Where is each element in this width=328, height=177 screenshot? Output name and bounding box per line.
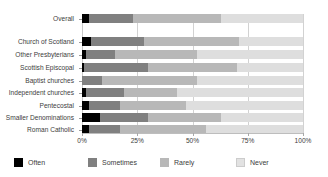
bar-segment-rarely	[124, 88, 177, 97]
bar-segment-rarely	[133, 14, 221, 23]
legend-label: Sometimes	[102, 158, 137, 167]
often-swatch	[14, 158, 23, 167]
bar-row	[82, 50, 303, 59]
bar-segment-sometimes	[89, 101, 120, 110]
category-label: Scottish Episcopal	[20, 63, 74, 72]
plot-area	[82, 14, 303, 133]
legend-label: Rarely	[174, 158, 194, 167]
category-label: Overall	[53, 14, 74, 23]
bar-segment-sometimes	[89, 14, 133, 23]
legend-label: Never	[250, 158, 269, 167]
bar-segment-often	[82, 101, 89, 110]
x-tick-25	[137, 133, 138, 136]
bar-segment-never	[221, 113, 303, 122]
x-tick-label: 25%	[131, 137, 144, 145]
category-label: Independent churches	[9, 88, 74, 97]
bar-row	[82, 37, 303, 46]
bar-segment-never	[177, 88, 303, 97]
x-tick-100	[303, 133, 304, 136]
bar-segment-sometimes	[86, 88, 124, 97]
sometimes-swatch	[88, 158, 97, 167]
x-tick-75	[248, 133, 249, 136]
bar-segment-often	[82, 37, 91, 46]
bar-segment-never	[221, 14, 303, 23]
category-label: Pentecostal	[40, 101, 74, 110]
category-tick	[79, 19, 82, 20]
bar-segment-never	[197, 50, 303, 59]
legend-item[interactable]: Sometimes	[88, 158, 137, 167]
legend-label: Often	[28, 158, 45, 167]
bar-segment-rarely	[102, 76, 197, 85]
legend-item[interactable]: Never	[236, 158, 269, 167]
category-label: Roman Catholic	[27, 125, 74, 134]
bar-rows	[82, 14, 303, 133]
bar-segment-rarely	[148, 113, 221, 122]
bar-segment-often	[82, 113, 100, 122]
legend-item[interactable]: Rarely	[160, 158, 194, 167]
bar-segment-rarely	[144, 37, 239, 46]
stacked-bar-chart: OverallChurch of ScotlandOther Presbyter…	[0, 0, 328, 177]
bar-segment-often	[82, 14, 89, 23]
category-tick	[79, 93, 82, 94]
x-tick-label: 50%	[186, 137, 199, 145]
x-tick-label: 0%	[77, 137, 87, 145]
bar-segment-never	[197, 76, 303, 85]
bar-row	[82, 76, 303, 85]
bar-row	[82, 101, 303, 110]
category-tick	[79, 81, 82, 82]
category-tick	[79, 118, 82, 119]
category-tick	[79, 68, 82, 69]
bar-segment-never	[239, 37, 303, 46]
category-tick	[79, 42, 82, 43]
never-swatch	[236, 158, 245, 167]
bar-segment-sometimes	[84, 63, 148, 72]
x-tick-label: 75%	[241, 137, 254, 145]
legend-item[interactable]: Often	[14, 158, 45, 167]
bar-segment-sometimes	[100, 113, 149, 122]
bar-segment-rarely	[120, 101, 186, 110]
category-label: Smaller Denominations	[6, 113, 74, 122]
category-tick	[79, 130, 82, 131]
category-tick	[79, 55, 82, 56]
chart-legend: OftenSometimesRarelyNever	[0, 155, 328, 177]
gridline-100	[303, 14, 304, 133]
bar-segment-rarely	[148, 63, 236, 72]
category-label: Church of Scotland	[18, 37, 74, 46]
clipped-title-strip	[0, 0, 328, 9]
bar-segment-sometimes	[82, 76, 102, 85]
bar-segment-never	[237, 63, 303, 72]
bar-row	[82, 14, 303, 23]
bar-segment-sometimes	[86, 50, 115, 59]
bar-row	[82, 63, 303, 72]
category-axis-labels: OverallChurch of ScotlandOther Presbyter…	[0, 14, 78, 133]
category-label: Baptist churches	[25, 76, 74, 85]
bar-segment-sometimes	[91, 37, 144, 46]
bar-row	[82, 113, 303, 122]
x-tick-0	[82, 133, 83, 136]
x-tick-label: 100%	[295, 137, 312, 145]
bar-segment-never	[186, 101, 303, 110]
category-label: Other Presbyterians	[15, 50, 74, 59]
x-tick-50	[193, 133, 194, 136]
bar-segment-rarely	[115, 50, 197, 59]
rarely-swatch	[160, 158, 169, 167]
category-tick	[79, 106, 82, 107]
bar-row	[82, 88, 303, 97]
